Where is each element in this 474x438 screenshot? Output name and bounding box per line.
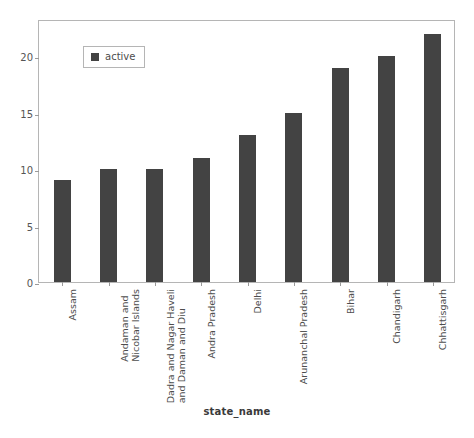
x-axis-title: state_name: [0, 406, 474, 417]
x-tick-label-line: Andra Pradesh: [206, 289, 217, 358]
y-tick-label: 10: [20, 166, 33, 176]
bar: [239, 135, 256, 282]
x-tick-label-line: Chhattisgarh: [437, 289, 448, 350]
x-tick-mark: [109, 282, 110, 286]
bar: [54, 180, 71, 282]
x-tick-label: Dadra and Nagar Haveliand Daman and Diu: [165, 289, 187, 403]
x-tick-mark: [433, 282, 434, 286]
x-axis-tick-labels: AssamAndaman andNicobar IslandsDadra and…: [38, 289, 455, 401]
x-tick-mark: [387, 282, 388, 286]
bar: [424, 34, 441, 282]
x-tick-label-line: Arunanchal Pradesh: [298, 289, 309, 384]
bar: [193, 158, 210, 282]
x-tick-label: Arunanchal Pradesh: [298, 289, 309, 384]
x-tick-label-line: Dadra and Nagar Haveli: [165, 289, 176, 403]
x-tick-label: Delhi: [252, 289, 263, 313]
x-tick-mark: [62, 282, 63, 286]
x-tick-label-line: Andaman and: [119, 289, 130, 362]
bar: [100, 169, 117, 282]
x-tick-label: Andra Pradesh: [206, 289, 217, 358]
x-tick-label: Bihar: [345, 289, 356, 314]
legend-label: active: [105, 52, 135, 62]
plot-area: 05101520 active: [38, 20, 455, 283]
legend-swatch-icon: [91, 53, 99, 61]
y-tick-label: 5: [27, 223, 33, 233]
bar-chart-figure: 05101520 active AssamAndaman andNicobar …: [0, 0, 474, 438]
x-tick-label-line: Bihar: [345, 289, 356, 314]
x-tick-mark: [201, 282, 202, 286]
y-tick-label: 20: [20, 53, 33, 63]
x-tick-label-line: and Daman and Diu: [176, 289, 187, 403]
x-tick-mark: [155, 282, 156, 286]
x-tick-label-line: Delhi: [252, 289, 263, 313]
chart-legend: active: [83, 46, 145, 68]
x-tick-mark: [248, 282, 249, 286]
bar: [332, 68, 349, 282]
y-tick-label: 15: [20, 110, 33, 120]
bar: [146, 169, 163, 282]
x-tick-label-line: Chandigarh: [391, 289, 402, 344]
x-tick-label: Chhattisgarh: [437, 289, 448, 350]
x-tick-label-line: Nicobar Islands: [130, 289, 141, 362]
x-tick-label: Andaman andNicobar Islands: [119, 289, 141, 362]
y-tick-mark: [35, 284, 39, 285]
bar: [285, 113, 302, 282]
x-tick-label: Assam: [67, 289, 78, 320]
x-tick-label-line: Assam: [67, 289, 78, 320]
x-tick-mark: [294, 282, 295, 286]
y-tick-label: 0: [27, 279, 33, 289]
bar: [378, 56, 395, 282]
x-tick-mark: [340, 282, 341, 286]
x-tick-label: Chandigarh: [391, 289, 402, 344]
